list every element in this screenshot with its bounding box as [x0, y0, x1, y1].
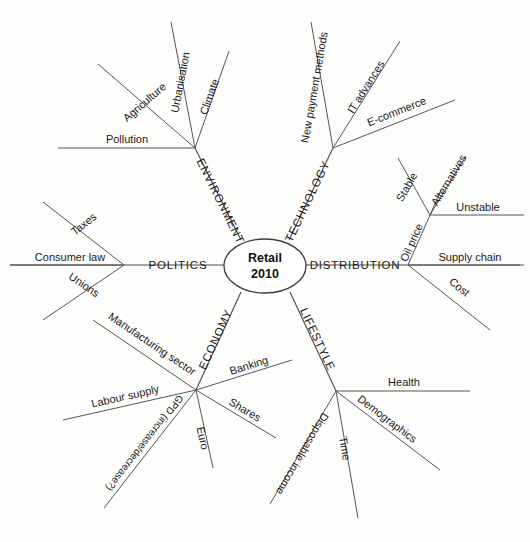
branch-label-environment: ENVIRONMENT [194, 157, 246, 246]
branch-label-politics: POLITICS [149, 259, 208, 271]
twig-label-euro: Euro [195, 426, 212, 451]
center-node[interactable]: Retail 2010 [224, 239, 306, 293]
branch-label-distribution: DISTRIBUTION [310, 259, 401, 271]
mind-map-canvas: Retail 2010 ENVIRONMENT TECHNOLOGY DISTR… [0, 0, 530, 542]
twig-label-pollution: Pollution [106, 133, 148, 145]
twig-label-agriculture: Agriculture [121, 80, 169, 123]
twig-label-disposable-income: Disposable income [274, 411, 331, 497]
twig-label-time: Time [337, 435, 353, 461]
twig-label-new-payment-methods: New payment methods [298, 30, 329, 143]
twig-line-cost [408, 265, 490, 330]
branch-label-technology: TECHNOLOGY [283, 159, 332, 244]
twig-label-it-advances: IT advances [345, 58, 387, 115]
twig-label-unstable: Unstable [456, 201, 499, 213]
twig-label-cost: Cost [447, 275, 472, 298]
twig-label-manufacturing-sector: Manufacturing sector [106, 310, 198, 378]
twig-label-oil-price: Oil price [398, 222, 425, 264]
branch-label-lifestyle: LIFESTYLE [298, 306, 338, 373]
twig-label-demographics: Demographics [356, 393, 420, 446]
center-ellipse [224, 239, 306, 293]
center-title-line2: 2010 [251, 267, 279, 281]
branch-label-economy: ECONOMY [196, 307, 234, 371]
twig-label-unions: Unions [67, 270, 102, 299]
twig-label-consumer-law: Consumer law [35, 251, 105, 263]
twig-label-supply-chain: Supply chain [439, 251, 502, 263]
mind-map-svg: Retail 2010 ENVIRONMENT TECHNOLOGY DISTR… [0, 0, 530, 542]
twig-label-health: Health [388, 376, 420, 388]
twig-label-stable: Stable [394, 171, 420, 204]
twig-label-alternatives: Alternatives [428, 152, 468, 208]
twig-label-urbanisation: Urbanisation [168, 51, 191, 114]
branch-environment[interactable] [58, 22, 241, 240]
twig-label-climate: Climate [197, 77, 221, 116]
center-title-line1: Retail [248, 251, 282, 265]
